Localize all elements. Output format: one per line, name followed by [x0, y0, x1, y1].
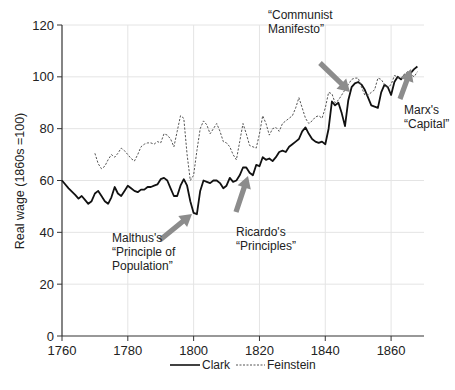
y-tick-label: 100: [32, 69, 54, 84]
annotation-text: Manifesto”: [268, 22, 324, 36]
series-line-clark: [62, 67, 417, 215]
x-tick-label: 1780: [113, 343, 142, 358]
annotation-arrow-icon: [398, 69, 414, 100]
x-tick-label: 1860: [377, 343, 406, 358]
chart-svg: 020406080100120176017801800182018401860 …: [0, 0, 455, 390]
axes: 020406080100120176017801800182018401860: [32, 18, 424, 359]
y-axis-label: Real wage (1860s =100): [13, 113, 27, 250]
y-tick-label: 80: [40, 121, 54, 136]
annotation-text: Marx's: [404, 103, 439, 117]
y-tick-label: 20: [40, 277, 54, 292]
annotation-text: “Capital”: [404, 117, 449, 131]
x-tick-label: 1800: [179, 343, 208, 358]
annotation-arrow-icon: [158, 214, 192, 242]
annotation-text: “Communist: [268, 8, 333, 22]
x-tick-label: 1760: [48, 343, 77, 358]
legend: Clark Feinstein: [170, 358, 316, 372]
y-tick-label: 60: [40, 173, 54, 188]
annotation-text: “Principles”: [236, 239, 296, 253]
annotation-text: “Principle of: [112, 245, 176, 259]
legend-label-clark: Clark: [202, 358, 231, 372]
y-tick-label: 0: [47, 329, 54, 344]
annotation-text: Malthus's: [112, 231, 162, 245]
annotation-text: Population”: [112, 259, 173, 273]
y-tick-label: 120: [32, 18, 54, 33]
x-tick-label: 1840: [311, 343, 340, 358]
annotations: Malthus's“Principle ofPopulation”Ricardo…: [112, 8, 449, 273]
legend-label-feinstein: Feinstein: [267, 358, 316, 372]
y-tick-label: 40: [40, 225, 54, 240]
x-tick-label: 1820: [245, 343, 274, 358]
annotation-text: Ricardo's: [236, 225, 286, 239]
series-group: [62, 66, 417, 214]
